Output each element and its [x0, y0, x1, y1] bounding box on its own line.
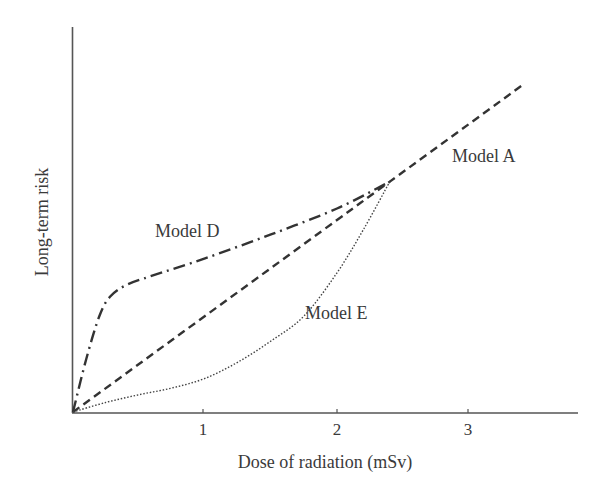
chart-canvas	[0, 0, 614, 501]
y-axis-label: Long-term risk	[32, 168, 53, 276]
x-tick-label-2: 2	[333, 420, 342, 440]
model-a-line	[73, 84, 524, 412]
model-a-label: Model A	[452, 146, 516, 167]
x-tick-label-3: 3	[464, 420, 473, 440]
x-axis-label: Dose of radiation (mSv)	[238, 452, 412, 473]
model-e-label: Model E	[305, 303, 368, 324]
x-tick-label-1: 1	[199, 420, 208, 440]
model-d-label: Model D	[155, 221, 220, 242]
